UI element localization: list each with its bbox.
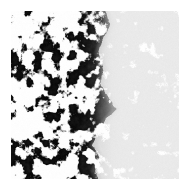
noise-texture-canvas	[11, 11, 179, 179]
noise-texture-field	[11, 11, 179, 179]
figure-root	[0, 0, 189, 194]
